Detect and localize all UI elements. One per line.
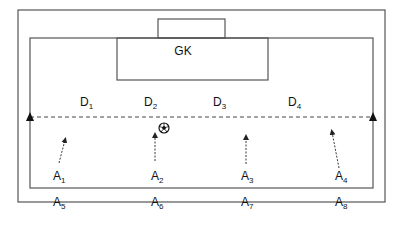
soccer-ball-icon <box>159 123 169 133</box>
soccer-drill-diagram: GK D1 D2 D3 D4 A1 A2 A3 A4 <box>0 0 400 230</box>
svg-text:A5: A5 <box>53 195 66 211</box>
svg-text:A2: A2 <box>151 169 164 185</box>
svg-text:A1: A1 <box>53 169 66 185</box>
playing-field <box>30 38 373 188</box>
svg-text:D3: D3 <box>213 95 227 111</box>
attacker-a1: A1 <box>53 169 66 185</box>
attacker-a5: A5 <box>53 195 66 211</box>
svg-text:A4: A4 <box>335 169 348 185</box>
attacker-a6: A6 <box>151 195 164 211</box>
attacker-a8: A8 <box>335 195 348 211</box>
goalkeeper-label: GK <box>174 44 191 58</box>
svg-text:A3: A3 <box>241 169 254 185</box>
attacker-a7: A7 <box>241 195 254 211</box>
outer-frame <box>18 10 385 202</box>
attacker-a4: A4 <box>335 169 348 185</box>
goal <box>158 19 225 38</box>
cone-right-icon <box>369 112 377 121</box>
attacker-a3: A3 <box>241 169 254 185</box>
run-arrow-a4 <box>332 132 339 168</box>
defender-d2: D2 <box>144 95 158 111</box>
svg-text:A7: A7 <box>241 195 254 211</box>
run-arrow-a1 <box>59 140 65 163</box>
attacker-a2: A2 <box>151 169 164 185</box>
defender-d1: D1 <box>80 95 94 111</box>
defender-d3: D3 <box>213 95 227 111</box>
svg-text:A6: A6 <box>151 195 164 211</box>
penalty-box <box>117 38 268 80</box>
defender-d4: D4 <box>288 95 302 111</box>
svg-text:D1: D1 <box>80 95 94 111</box>
svg-text:D2: D2 <box>144 95 158 111</box>
svg-text:D4: D4 <box>288 95 302 111</box>
svg-text:A8: A8 <box>335 195 348 211</box>
